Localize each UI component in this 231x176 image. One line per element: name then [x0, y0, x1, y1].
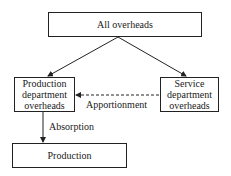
production-dept-line-2: department — [22, 89, 67, 100]
service-dept-line-2: department — [167, 89, 212, 100]
production-department-overheads-box: Production department overheads — [14, 77, 75, 112]
arrow-to-production-dept — [48, 37, 118, 76]
arrow-to-service-dept — [118, 37, 186, 76]
service-department-overheads-box: Service department overheads — [160, 77, 219, 112]
production-box: Production — [12, 143, 127, 168]
absorption-label: Absorption — [49, 121, 94, 132]
all-overheads-label: All overheads — [97, 19, 153, 30]
all-overheads-box: All overheads — [48, 12, 202, 37]
service-dept-line-3: overheads — [169, 100, 210, 111]
production-dept-line-1: Production — [23, 78, 67, 89]
service-dept-line-1: Service — [175, 78, 205, 89]
production-dept-line-3: overheads — [24, 100, 65, 111]
apportionment-label: Apportionment — [86, 99, 147, 110]
production-label: Production — [48, 150, 92, 161]
